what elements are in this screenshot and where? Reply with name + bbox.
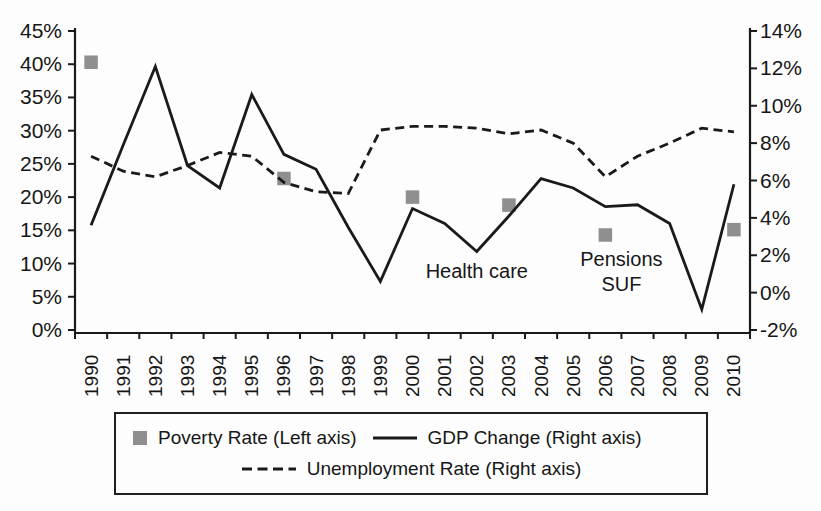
legend-label-poverty-rate: Poverty Rate (Left axis) (158, 427, 357, 449)
left-axis-tick-label: 10% (20, 252, 62, 275)
legend: Poverty Rate (Left axis) GDP Change (Rig… (114, 412, 708, 495)
x-axis-year-label: 2001 (434, 355, 455, 397)
legend-row-2: Unemployment Rate (Right axis) (116, 458, 706, 480)
right-axis-tick-label: 2% (760, 243, 790, 266)
unemployment-rate-line (91, 126, 734, 193)
x-axis-year-label: 2005 (563, 355, 584, 397)
x-axis-year-label: 2002 (466, 355, 487, 397)
annotation-pensions-suf: SUF (601, 273, 641, 295)
x-axis-year-label: 2007 (627, 355, 648, 397)
left-axis-tick-label: 40% (20, 52, 62, 75)
right-axis-tick-label: 0% (760, 281, 790, 304)
legend-label-unemployment-rate: Unemployment Rate (Right axis) (307, 458, 582, 480)
x-axis-year-label: 2009 (691, 355, 712, 397)
right-axis-tick-label: 10% (760, 94, 802, 117)
left-axis-tick-label: 20% (20, 185, 62, 208)
x-axis-year-label: 2006 (595, 355, 616, 397)
x-axis-year-label: 1997 (306, 355, 327, 397)
right-axis-tick-label: 8% (760, 131, 790, 154)
unemployment-dashed-line-swatch (241, 465, 297, 473)
dual-axis-line-chart: 0%5%10%15%20%25%30%35%40%45%-2%0%2%4%6%8… (0, 0, 821, 408)
x-axis-year-label: 2000 (402, 355, 423, 397)
left-axis-tick-label: 30% (20, 119, 62, 142)
left-axis-tick-label: 15% (20, 218, 62, 241)
right-axis-tick-label: 14% (760, 19, 802, 42)
gdp-solid-line-swatch (372, 434, 418, 442)
x-axis-year-label: 1999 (370, 355, 391, 397)
x-axis-year-label: 2004 (531, 354, 552, 397)
left-axis-tick-label: 25% (20, 152, 62, 175)
x-axis-year-label: 1991 (113, 355, 134, 397)
x-axis-year-label: 2003 (498, 355, 519, 397)
legend-label-gdp-change: GDP Change (Right axis) (428, 427, 642, 449)
left-axis-tick-label: 5% (32, 285, 62, 308)
legend-row-1: Poverty Rate (Left axis) GDP Change (Rig… (116, 427, 706, 449)
chart-figure: 0%5%10%15%20%25%30%35%40%45%-2%0%2%4%6%8… (0, 0, 821, 511)
right-axis-tick-label: -2% (760, 318, 797, 341)
x-axis-year-label: 1995 (241, 355, 262, 397)
x-axis-year-label: 1993 (177, 355, 198, 397)
left-axis-tick-label: 45% (20, 19, 62, 42)
x-axis-year-label: 1996 (273, 355, 294, 397)
right-axis-tick-label: 12% (760, 56, 802, 79)
right-axis-tick-label: 4% (760, 206, 790, 229)
poverty-rate-marker (406, 190, 420, 204)
x-axis-year-label: 2008 (659, 355, 680, 397)
right-axis-tick-label: 6% (760, 169, 790, 192)
x-axis-year-label: 2010 (723, 355, 744, 397)
left-axis-tick-label: 35% (20, 85, 62, 108)
poverty-rate-marker (599, 228, 613, 242)
left-axis-tick-label: 0% (32, 318, 62, 341)
annotation-health-care: Health care (426, 260, 528, 282)
poverty-rate-square-swatch (133, 431, 147, 445)
x-axis-year-label: 1992 (145, 355, 166, 397)
x-axis-year-label: 1998 (338, 355, 359, 397)
x-axis-year-label: 1990 (81, 355, 102, 397)
poverty-rate-marker (84, 55, 98, 69)
poverty-rate-marker (727, 223, 741, 237)
annotation-pensions-suf: Pensions (580, 248, 662, 270)
x-axis-year-label: 1994 (209, 354, 230, 397)
